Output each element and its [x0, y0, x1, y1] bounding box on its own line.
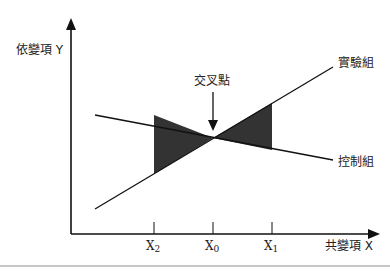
tick-label-x2: X2	[146, 240, 160, 254]
diagram-canvas	[0, 0, 390, 271]
tick-base: X	[205, 239, 214, 253]
x-axis-arrow-icon	[368, 229, 380, 239]
y-axis-label: 依變項 Y	[16, 44, 63, 56]
bottom-divider	[0, 265, 390, 267]
intersection-label: 交叉點	[194, 75, 230, 87]
y-axis-arrow-icon	[66, 18, 76, 30]
intersection-arrow-icon	[208, 120, 218, 131]
interaction-diagram: 依變項 Y 交叉點 實驗組 控制組 共變項 X X2 X0 X1	[0, 0, 390, 271]
x-axis-label: 共變項 X	[325, 240, 373, 252]
experimental-group-label: 實驗組	[338, 57, 374, 69]
control-group-label: 控制組	[338, 156, 374, 168]
tick-base: X	[146, 239, 155, 253]
tick-sub: 2	[155, 244, 161, 254]
tick-label-x0: X0	[205, 240, 219, 254]
tick-sub: 1	[273, 244, 279, 254]
tick-label-x1: X1	[264, 240, 278, 254]
tick-base: X	[264, 239, 273, 253]
tick-sub: 0	[214, 244, 220, 254]
